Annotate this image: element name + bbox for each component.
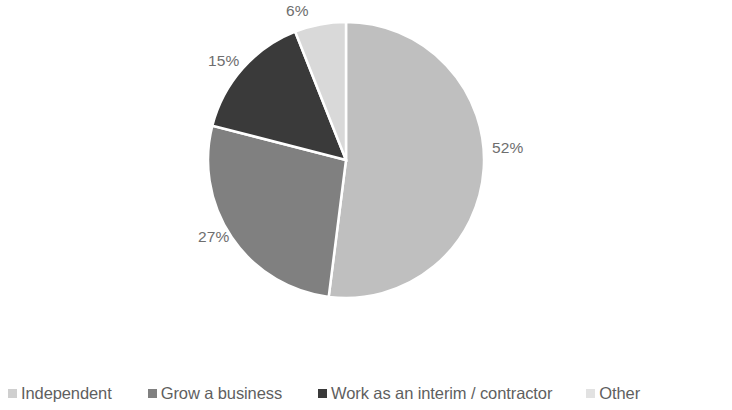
legend-swatch-icon-grow-a-business [148, 389, 157, 398]
legend-item-independent[interactable]: Independent [8, 385, 112, 402]
legend-label-independent: Independent [21, 385, 112, 402]
legend-swatch-icon-other [586, 389, 595, 398]
legend-label-work-as-an-interim-contractor: Work as an interim / contractor [331, 385, 552, 402]
legend-item-other[interactable]: Other [586, 385, 640, 402]
legend-swatch-icon-independent [8, 389, 17, 398]
pie-svg [0, 0, 732, 350]
legend-item-work-as-an-interim-contractor[interactable]: Work as an interim / contractor [318, 385, 552, 402]
pie-plot-area: 52% 27% 15% 6% [0, 0, 732, 350]
pie-slices [208, 22, 484, 298]
data-label-other: 6% [286, 2, 309, 20]
legend-label-other: Other [599, 385, 640, 402]
legend-swatch-icon-work-as-an-interim-contractor [318, 389, 327, 398]
legend-item-grow-a-business[interactable]: Grow a business [148, 385, 282, 402]
pie-slice-independent[interactable] [329, 22, 484, 298]
legend-label-grow-a-business: Grow a business [161, 385, 282, 402]
data-label-grow-a-business: 27% [198, 228, 229, 246]
data-label-work-as-an-interim-contractor: 15% [208, 52, 239, 70]
chart-legend: Independent Grow a business Work as an i… [0, 378, 732, 408]
pie-chart: 52% 27% 15% 6% Independent Grow a busine… [0, 0, 732, 410]
data-label-independent: 52% [492, 139, 523, 157]
